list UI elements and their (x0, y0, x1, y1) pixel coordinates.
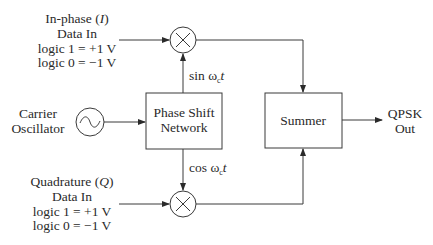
oscillator-label: Oscillator (11, 121, 65, 136)
mixer-i (170, 27, 196, 53)
phase-shift-network: Phase Shift Network (146, 93, 222, 149)
phase-shift-label-2: Network (160, 120, 207, 135)
mixer-q (170, 191, 196, 217)
summer-label: Summer (280, 113, 326, 128)
carrier-oscillator (76, 108, 104, 136)
quadrature-input-label: Quadrature (Q) Data In logic 1 = +1 V lo… (31, 174, 114, 233)
quadrature-data-in: Data In (52, 189, 92, 204)
output-label-1: QPSK (388, 106, 423, 121)
phase-shift-label-1: Phase Shift (153, 105, 214, 120)
in-phase-input-label: In-phase (I) Data In logic 1 = +1 V logi… (38, 11, 117, 70)
quadrature-logic-0: logic 0 = −1 V (33, 218, 112, 233)
output-label-2: Out (395, 121, 415, 136)
mixer-q-to-summer-line (196, 149, 303, 204)
summer: Summer (265, 93, 342, 148)
in-phase-logic-1: logic 1 = +1 V (38, 41, 117, 56)
sin-label: sin ωct (189, 68, 226, 85)
in-phase-data-in: Data In (57, 26, 97, 41)
mixer-i-to-summer-line (196, 40, 303, 92)
in-phase-title: In-phase (I) (45, 11, 108, 26)
in-phase-logic-0: logic 0 = −1 V (38, 55, 117, 70)
quadrature-logic-1: logic 1 = +1 V (33, 204, 112, 219)
qpsk-modulator-diagram: In-phase (I) Data In logic 1 = +1 V logi… (0, 0, 433, 245)
quadrature-title: Quadrature (Q) (31, 174, 114, 189)
carrier-label: Carrier (19, 106, 58, 121)
cos-label: cos ωct (189, 160, 228, 177)
